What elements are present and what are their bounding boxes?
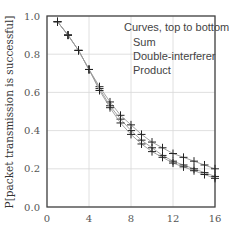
plus-marker-icon	[180, 153, 188, 161]
plus-marker-icon	[190, 157, 198, 165]
legend-title: Curves, top to bottom:	[124, 21, 229, 33]
plus-marker-icon	[159, 153, 167, 161]
plus-marker-icon	[169, 159, 177, 167]
plus-marker-icon	[54, 18, 62, 26]
x-axis-ticks: 0481216	[44, 213, 222, 224]
x-tick-label: 8	[128, 213, 134, 224]
x-tick-label: 4	[86, 213, 92, 224]
legend: Curves, top to bottom: Sum Double-interf…	[124, 21, 229, 76]
x-tick-label: 12	[167, 213, 180, 224]
chart: 0.00.20.40.60.81.0 0481216 P[packet tran…	[0, 0, 229, 236]
legend-entry-product: Product	[133, 64, 171, 76]
x-tick-label: 16	[209, 213, 222, 224]
plus-marker-icon	[211, 165, 219, 173]
grid-lines	[47, 16, 215, 207]
legend-entry-double-interferer: Double-interferer	[133, 50, 216, 62]
plus-marker-icon	[85, 65, 93, 73]
plus-marker-icon	[64, 31, 72, 39]
legend-entry-sum: Sum	[133, 36, 156, 48]
y-tick-label: 0.4	[24, 125, 40, 136]
plus-marker-icon	[148, 148, 156, 156]
y-tick-label: 0.8	[24, 49, 40, 60]
plus-marker-icon	[159, 144, 167, 152]
y-axis-ticks: 0.00.20.40.60.81.0	[24, 11, 40, 213]
y-tick-label: 0.0	[24, 202, 40, 213]
y-tick-label: 0.6	[24, 87, 40, 98]
x-tick-label: 0	[44, 213, 50, 224]
plus-marker-icon	[75, 46, 83, 54]
y-tick-label: 0.2	[24, 163, 40, 174]
plus-marker-icon	[169, 150, 177, 158]
y-axis-label: P[packet transmission is successful]	[3, 16, 15, 209]
plus-marker-icon	[201, 161, 209, 169]
y-tick-label: 1.0	[24, 11, 40, 22]
